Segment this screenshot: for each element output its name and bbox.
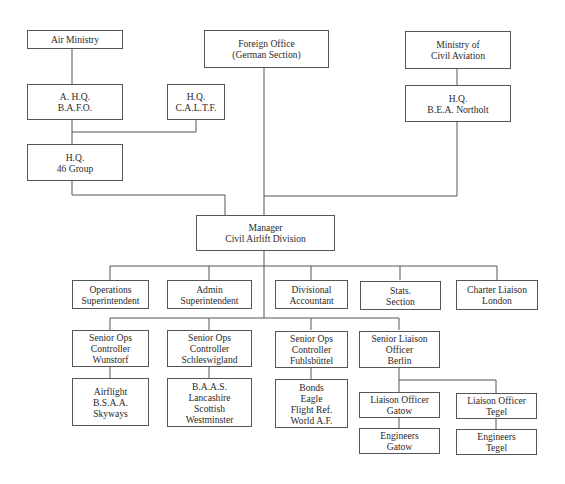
node-label: A. H.Q. [60,91,90,102]
node-senior-liaison-berlin: Senior Liaison Officer Berlin [359,331,440,368]
node-label: Gatow [387,405,413,416]
node-hq-caltf: H.Q. C.A.L.T.F. [167,84,225,120]
node-label: Liaison Officer [370,394,429,405]
node-liaison-officer-gatow: Liaison Officer Gatow [359,392,440,418]
node-soc-wunstorf: Senior Ops Controller Wunstorf [72,330,149,367]
node-charter-liaison: Charter Liaison London [456,280,538,310]
node-label: Schleswigland [182,354,238,365]
node-hq-bea-northolt: H.Q. B.E.A. Northolt [405,85,511,122]
node-label: Charter Liaison [467,284,527,295]
node-label: Engineers [380,430,418,441]
node-label: Airflight [94,386,128,397]
node-soc-schleswigland: Senior Ops Controller Schleswigland [167,330,252,367]
node-label: Foreign Office [238,38,295,49]
node-label: Lancashire [188,392,230,403]
node-manager: Manager Civil Airlift Division [196,215,335,251]
node-label: Wunstorf [93,354,129,365]
node-admin-superintendent: Admin Superintendent [167,280,252,309]
node-label: Tegel [486,406,507,417]
node-hq-46-group: H.Q. 46 Group [27,144,123,181]
node-label: Stats. [390,285,411,296]
node-label: Manager [248,222,282,233]
node-label: Skyways [93,408,128,419]
node-label: Senior Ops [188,332,231,343]
node-label: Gatow [387,441,413,452]
node-label: London [482,295,512,306]
node-wunstorf-operators: Airflight B.S.A.A. Skyways [72,378,149,426]
node-label: Civil Aviation [431,50,485,61]
node-label: Admin [196,284,223,295]
node-liaison-officer-tegel: Liaison Officer Tegel [456,393,537,419]
node-label: B.A.F.O. [58,102,92,113]
node-label: Senior Ops [290,333,333,344]
node-stats-section: Stats. Section [360,281,441,310]
node-label: B.A.A.S. [192,381,227,392]
node-engineers-gatow: Engineers Gatow [359,428,440,454]
node-label: Engineers [477,431,515,442]
node-label: Westminster [186,414,234,425]
node-label: Flight Ref. [291,404,333,415]
node-label: Fuhlsbüttel [290,355,333,366]
node-label: Superintendent [180,295,238,306]
node-fuhlsbuttel-operators: Bonds Eagle Flight Ref. World A.F. [275,379,348,428]
node-label: Eagle [301,393,323,404]
node-ministry-civil-aviation: Ministry of Civil Aviation [405,31,511,69]
node-label: Superintendent [81,295,139,306]
node-label: Ministry of [436,39,479,50]
node-label: Senior Liaison [371,333,427,344]
node-label: Tegel [486,442,507,453]
node-air-ministry: Air Ministry [27,30,123,49]
node-label: Controller [91,343,130,354]
node-label: World A.F. [291,415,333,426]
node-label: 46 Group [57,163,94,174]
node-label: Operations [89,284,131,295]
node-divisional-accountant: Divisional Accountant [275,280,348,309]
node-label: H.Q. [66,152,85,163]
node-label: H.Q. [187,91,206,102]
node-label: Air Ministry [51,34,99,45]
node-label: (German Section) [232,49,300,60]
node-label: Controller [190,343,229,354]
node-soc-fuhlsbuttel: Senior Ops Controller Fuhlsbüttel [275,331,348,368]
node-label: H.Q. [449,93,468,104]
node-label: Civil Airlift Division [225,233,306,244]
node-label: Senior Ops [89,332,132,343]
node-label: Scottish [194,403,225,414]
node-label: B.E.A. Northolt [427,104,488,115]
node-label: Bonds [299,382,324,393]
node-label: Section [386,296,415,307]
node-operations-superintendent: Operations Superintendent [72,280,149,309]
node-label: Divisional [292,284,332,295]
node-engineers-tegel: Engineers Tegel [456,429,537,455]
node-label: Berlin [388,355,412,366]
node-label: Officer [386,344,414,355]
node-label: Controller [292,344,331,355]
node-schleswigland-operators: B.A.A.S. Lancashire Scottish Westminster [167,378,252,427]
node-label: Liaison Officer [467,395,526,406]
node-label: Accountant [289,295,333,306]
node-label: C.A.L.T.F. [176,102,217,113]
node-ahq-bafo: A. H.Q. B.A.F.O. [27,84,123,120]
node-foreign-office: Foreign Office (German Section) [204,30,329,68]
node-label: B.S.A.A. [93,397,128,408]
